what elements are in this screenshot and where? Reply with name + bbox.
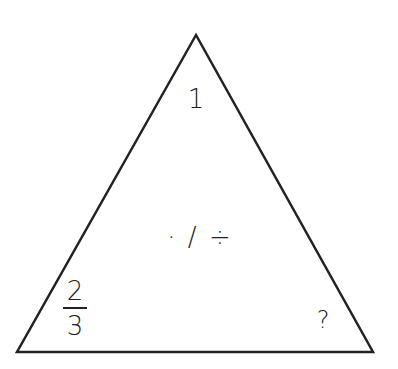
fraction-denominator: 3 bbox=[62, 313, 88, 339]
unknown-value: ? bbox=[312, 308, 334, 332]
operation-symbols: · / ÷ bbox=[150, 224, 250, 250]
top-value: 1 bbox=[186, 86, 206, 112]
fraction-bar bbox=[63, 307, 87, 309]
bottom-left-fraction: 2 3 bbox=[62, 278, 88, 339]
triangle-diagram bbox=[0, 0, 398, 369]
fraction-numerator: 2 bbox=[62, 278, 88, 304]
